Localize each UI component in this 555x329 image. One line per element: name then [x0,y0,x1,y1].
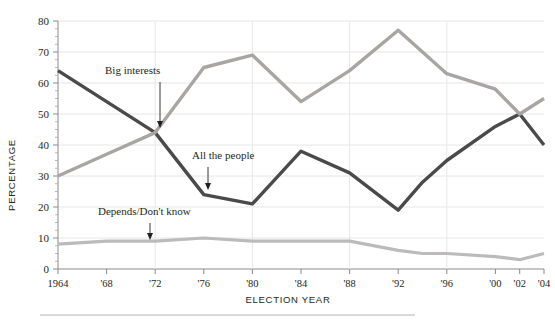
series-line [58,238,544,260]
y-tick-label: 40 [38,139,50,151]
x-tick-label: '84 [295,278,308,289]
x-tick-label: '88 [343,278,355,289]
x-tick-label: '96 [441,278,453,289]
y-tick-label: 0 [44,263,50,275]
chart-figure: 01020304050607080 1964'68'72'76'80'84'88… [0,0,555,329]
x-axis-group: 1964'68'72'76'80'84'88'92'96'00'02'04 [48,269,551,289]
x-tick-label: '92 [392,278,404,289]
y-tick-label: 50 [38,108,50,120]
annotation-label: Depends/Don't know [98,205,191,217]
x-tick-label: '00 [489,278,501,289]
x-tick-label: 1964 [48,278,70,289]
y-tick-label: 80 [38,15,50,27]
annotation-arrowhead-icon [205,183,211,190]
y-tick-label: 70 [38,46,50,58]
x-tick-label: '76 [198,278,210,289]
annotation-label: Big interests [105,64,160,76]
line-chart-plot: 01020304050607080 1964'68'72'76'80'84'88… [0,0,555,329]
annotations-group: Big interestsAll the peopleDepends/Don't… [98,64,254,240]
y-tick-label: 10 [38,232,50,244]
annotation-label: All the people [192,149,254,161]
y-tick-label: 20 [38,201,50,213]
y-axis-title: PERCENTAGE [6,139,17,211]
annotation-arrowhead-icon [147,233,153,240]
y-tick-label: 60 [38,77,50,89]
x-tick-label: '04 [538,278,551,289]
x-axis-title: ELECTION YEAR [246,294,331,305]
y-axis-group: 01020304050607080 [38,15,58,275]
y-tick-label: 30 [38,170,50,182]
x-tick-label: '02 [513,278,525,289]
series-line [58,71,544,211]
x-tick-label: '80 [246,278,258,289]
x-tick-label: '68 [100,278,112,289]
x-tick-label: '72 [149,278,161,289]
